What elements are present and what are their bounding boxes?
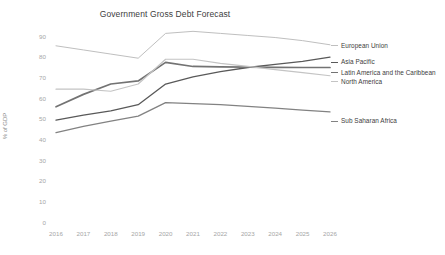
chart-container: Government Gross Debt Forecast % of GDP … xyxy=(0,0,445,255)
series-label-latin-america-and-the-caribbean: Latin America and the Caribbean xyxy=(341,69,436,76)
series-label-asia-pacific: Asia Pacific xyxy=(341,58,375,65)
series-label-dash xyxy=(331,45,338,46)
series-line xyxy=(56,103,330,133)
series-label-sub-saharan-africa: Sub Saharan Africa xyxy=(341,117,397,124)
series-label-north-america: North America xyxy=(341,78,382,85)
plot-area xyxy=(0,0,445,255)
series-line xyxy=(56,59,330,91)
series-line xyxy=(56,62,330,106)
series-label-dash xyxy=(331,62,338,63)
series-label-european-union: European Union xyxy=(341,42,388,49)
series-label-dash xyxy=(331,72,338,73)
series-label-dash xyxy=(331,121,338,122)
series-line xyxy=(56,31,330,58)
series-label-dash xyxy=(331,81,338,82)
